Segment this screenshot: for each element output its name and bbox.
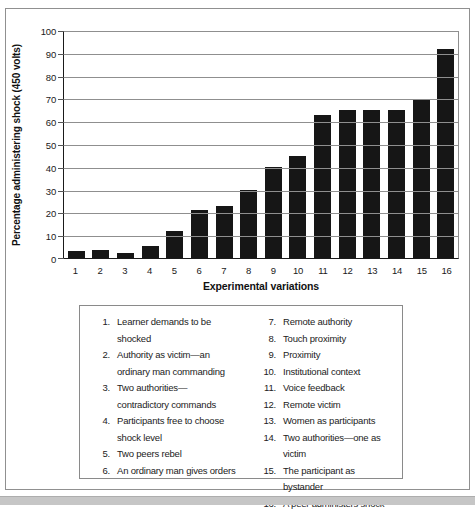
y-axis-title: Percentage administering shock (450 volt… <box>11 31 25 259</box>
legend-item-number: 11. <box>256 380 276 397</box>
legend-item-label: Two authorities— contradictory commands <box>117 380 245 413</box>
y-axis-label-40: 40 <box>25 163 56 174</box>
legend-item-number: 13. <box>256 413 276 430</box>
x-axis-label-7: 7 <box>212 265 237 277</box>
y-axis-label-0: 0 <box>25 254 56 265</box>
x-axis-label-11: 11 <box>311 265 336 277</box>
gridline-50 <box>64 145 458 146</box>
bar-6 <box>191 210 208 258</box>
gridline-90 <box>64 54 458 55</box>
x-axis-label-10: 10 <box>286 265 311 277</box>
bar-16 <box>437 49 454 258</box>
legend-item: 12.Remote victim <box>256 397 396 414</box>
page-edge-band <box>0 496 475 505</box>
legend-item: 14.Two authorities—one as victim <box>256 430 396 463</box>
plot-area <box>63 31 459 259</box>
x-axis-label-15: 15 <box>410 265 435 277</box>
legend-item-label: Two peers rebel <box>117 446 245 463</box>
legend-item: 3.Two authorities— contradictory command… <box>92 380 250 413</box>
x-axis-label-3: 3 <box>113 265 138 277</box>
legend-item-number: 12. <box>256 397 276 414</box>
legend-item-number: 1. <box>92 314 110 347</box>
legend-item-label: Authority as victim—an ordinary man comm… <box>117 347 245 380</box>
legend-item-number: 6. <box>92 463 110 480</box>
legend-column-2: 7.Remote authority8.Touch proximity9.Pro… <box>256 314 396 478</box>
y-axis-tick-labels: 0102030405060708090100 <box>25 31 56 259</box>
x-axis-label-1: 1 <box>63 265 88 277</box>
x-axis-label-6: 6 <box>187 265 212 277</box>
y-axis-label-20: 20 <box>25 208 56 219</box>
legend-item-label: Institutional context <box>283 364 360 381</box>
legend-item-label: Remote victim <box>283 397 341 414</box>
x-axis-label-8: 8 <box>236 265 261 277</box>
legend-item-label: An ordinary man gives orders <box>117 463 245 480</box>
legend-item: 8.Touch proximity <box>256 331 396 348</box>
legend-item-label: Learner demands to be shocked <box>117 314 245 347</box>
x-axis-label-4: 4 <box>137 265 162 277</box>
bar-4 <box>142 246 159 258</box>
gridline-70 <box>64 99 458 100</box>
legend-item: 5.Two peers rebel <box>92 446 250 463</box>
legend-item-number: 8. <box>256 331 276 348</box>
legend-item-number: 3. <box>92 380 110 413</box>
y-tick-100 <box>58 31 64 32</box>
y-axis-label-90: 90 <box>25 49 56 60</box>
legend-box: 1.Learner demands to be shocked2.Authori… <box>79 305 403 479</box>
x-axis-label-14: 14 <box>385 265 410 277</box>
legend-item: 11.Voice feedback <box>256 380 396 397</box>
legend-item: 1.Learner demands to be shocked <box>92 314 250 347</box>
y-tick-20 <box>58 213 64 214</box>
legend-item-label: The participant as bystander <box>283 463 396 496</box>
legend-item: 10.Institutional context <box>256 364 396 381</box>
y-axis-label-50: 50 <box>25 140 56 151</box>
legend-item-label: Two authorities—one as victim <box>283 430 396 463</box>
bar-10 <box>289 156 306 258</box>
x-axis-label-13: 13 <box>360 265 385 277</box>
gridline-80 <box>64 77 458 78</box>
y-tick-70 <box>58 99 64 100</box>
y-tick-90 <box>58 54 64 55</box>
y-tick-40 <box>58 168 64 169</box>
bar-1 <box>68 251 85 258</box>
legend-item-label: Voice feedback <box>283 380 345 397</box>
legend-item: 13.Women as participants <box>256 413 396 430</box>
x-axis-label-12: 12 <box>335 265 360 277</box>
legend-item-number: 9. <box>256 347 276 364</box>
legend-item-number: 15. <box>256 463 276 496</box>
y-axis-label-60: 60 <box>25 117 56 128</box>
legend-item: 7.Remote authority <box>256 314 396 331</box>
legend-item-number: 10. <box>256 364 276 381</box>
x-axis-tick-labels: 12345678910111213141516 <box>63 265 459 277</box>
legend-item-number: 2. <box>92 347 110 380</box>
legend-item-number: 7. <box>256 314 276 331</box>
y-tick-10 <box>58 236 64 237</box>
gridline-60 <box>64 122 458 123</box>
bar-8 <box>240 190 257 258</box>
legend-item-label: Touch proximity <box>283 331 346 348</box>
y-tick-30 <box>58 191 64 192</box>
x-axis-label-2: 2 <box>88 265 113 277</box>
gridline-10 <box>64 236 458 237</box>
x-axis-label-16: 16 <box>434 265 459 277</box>
y-axis-label-10: 10 <box>25 231 56 242</box>
figure-frame: Percentage administering shock (450 volt… <box>5 8 470 490</box>
bar-2 <box>92 250 109 258</box>
y-tick-80 <box>58 77 64 78</box>
legend-item: 15.The participant as bystander <box>256 463 396 496</box>
gridline-40 <box>64 168 458 169</box>
y-axis-label-70: 70 <box>25 94 56 105</box>
y-tick-0 <box>58 258 64 259</box>
y-tick-50 <box>58 145 64 146</box>
legend-item-label: Women as participants <box>283 413 375 430</box>
y-tick-60 <box>58 122 64 123</box>
legend-item: 4.Participants free to choose shock leve… <box>92 413 250 446</box>
y-axis-label-100: 100 <box>25 26 56 37</box>
y-axis-label-80: 80 <box>25 72 56 83</box>
legend-item: 2.Authority as victim—an ordinary man co… <box>92 347 250 380</box>
legend-item: 9.Proximity <box>256 347 396 364</box>
legend-item-number: 4. <box>92 413 110 446</box>
gridline-30 <box>64 191 458 192</box>
legend-item-label: Proximity <box>283 347 320 364</box>
bar-5 <box>166 231 183 258</box>
